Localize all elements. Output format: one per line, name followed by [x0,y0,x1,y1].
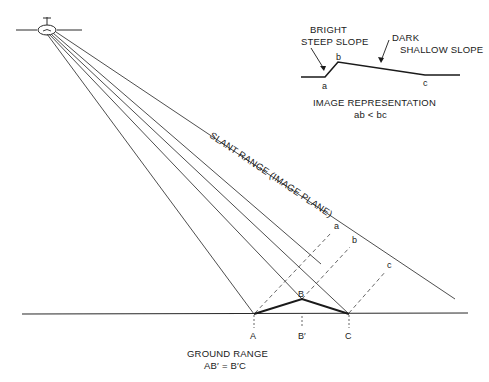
inset-point-c: c [423,78,428,88]
shallow-slope-label: SHALLOW SLOPE [400,44,483,55]
ground-point-A: A [250,331,256,341]
ground-range-caption: GROUND RANGE [187,348,268,359]
ground-point-C: C [345,331,352,341]
image-representation-equation: ab < bc [354,109,387,120]
ground-point-B: B [298,289,304,299]
ground-ticks [254,315,349,328]
slant-point-b: b [352,235,357,245]
slant-point-a: a [334,221,339,231]
ground-range-equation: AB′ = B′C [204,360,246,371]
image-representation-caption: IMAGE REPRESENTATION [313,97,436,108]
projection-lines [255,233,386,313]
foreshortening-diagram: A B B′ C a b c SLANT RANGE (IMAGE PLANE)… [0,0,489,382]
terrain-slope [254,299,349,314]
slant-range-label: SLANT RANGE (IMAGE PLANE) [208,130,335,220]
inset-point-b: b [336,52,341,62]
bright-label: BRIGHT [310,24,347,35]
ground-point-B-prime: B′ [298,331,306,341]
ground-line [22,313,468,314]
dark-label: DARK [392,32,420,43]
radar-rays [47,33,349,314]
satellite-sensor-icon [16,17,82,35]
inset-point-a: a [322,81,327,91]
slant-point-c: c [387,260,392,270]
steep-slope-label: STEEP SLOPE [301,36,369,47]
